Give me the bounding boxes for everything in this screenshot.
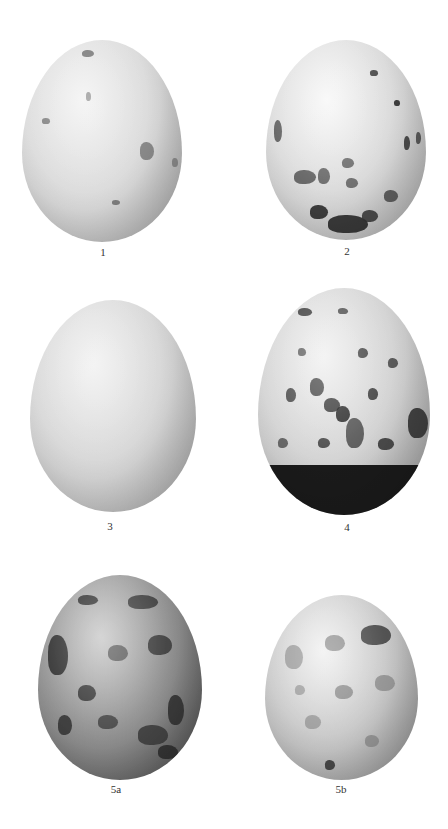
egg-label-4: 4: [332, 521, 362, 533]
egg-label-5b: 5b: [326, 783, 356, 795]
egg-label-3: 3: [95, 520, 125, 532]
egg-shading: [30, 300, 196, 512]
egg-1-image: [22, 40, 182, 242]
egg-label-1: 1: [88, 246, 118, 258]
egg-spot: [162, 60, 170, 66]
egg-5a-image: [38, 575, 202, 780]
egg-shading: [38, 575, 202, 780]
egg-shading: [265, 595, 418, 780]
egg-3-image: [30, 300, 196, 512]
egg-4-image: [258, 288, 430, 515]
egg-label-2: 2: [332, 245, 362, 257]
egg-shading: [258, 288, 430, 515]
egg-shading: [266, 40, 426, 240]
egg-2-image: [266, 40, 426, 240]
egg-label-5a: 5a: [101, 783, 131, 795]
egg-shading: [22, 40, 182, 242]
egg-5b-image: [265, 595, 418, 780]
